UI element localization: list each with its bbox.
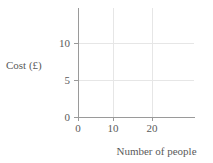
y-axis-line	[78, 8, 79, 118]
y-axis-tick-label-10: 10	[44, 38, 70, 49]
x-axis-label: Number of people	[100, 145, 213, 157]
gridline-vertical-20	[152, 8, 153, 117]
y-axis-label: Cost (£)	[6, 59, 42, 71]
chart-canvas: 10 5 0 0 10 20 Cost (£) Number of people	[0, 0, 213, 163]
x-axis-line	[78, 117, 195, 118]
y-axis-tick-label-0: 0	[44, 112, 70, 123]
x-axis-tick-0	[78, 117, 79, 121]
gridline-horizontal-5	[78, 80, 194, 81]
x-axis-tick-10	[113, 117, 114, 121]
x-axis-tick-label-0: 0	[66, 123, 90, 134]
gridline-vertical-10	[113, 8, 114, 117]
x-axis-tick-label-10: 10	[101, 123, 125, 134]
y-axis-tick-label-5: 5	[44, 75, 70, 86]
gridline-horizontal-10	[78, 43, 194, 44]
x-axis-tick-label-20: 20	[140, 123, 164, 134]
x-axis-tick-20	[152, 117, 153, 121]
y-axis-tick-10	[74, 43, 78, 44]
y-axis-tick-5	[74, 80, 78, 81]
